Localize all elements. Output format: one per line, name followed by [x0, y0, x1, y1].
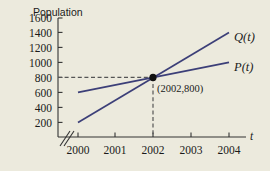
- intersection-point-marker: [149, 74, 156, 81]
- y-tick-marks: [58, 18, 63, 122]
- y-tick-label-800: 800: [14, 73, 52, 85]
- series-label-p: P(t): [234, 61, 253, 74]
- y-tick-label-1600: 1600: [14, 13, 52, 25]
- x-tick-label-2000: 2000: [58, 145, 98, 157]
- intersection-point-label: (2002,800): [157, 84, 203, 95]
- y-tick-label-1200: 1200: [14, 43, 52, 55]
- x-tick-label-2004: 2004: [209, 145, 249, 157]
- y-tick-label-200: 200: [14, 118, 52, 130]
- y-tick-label-600: 600: [14, 88, 52, 100]
- y-tick-label-400: 400: [14, 103, 52, 115]
- x-axis-title: t: [250, 131, 253, 143]
- series-label-q: Q(t): [234, 31, 255, 44]
- x-tick-label-2001: 2001: [95, 145, 135, 157]
- y-tick-label-1000: 1000: [14, 58, 52, 70]
- x-tick-label-2003: 2003: [171, 145, 211, 157]
- x-tick-label-2002: 2002: [133, 145, 173, 157]
- y-tick-label-1400: 1400: [14, 28, 52, 40]
- population-chart: Population 1600 1400 1200 1000 800 600 4…: [0, 0, 270, 171]
